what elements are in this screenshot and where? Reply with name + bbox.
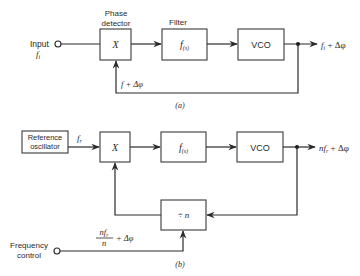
input-label: Input: [30, 39, 50, 49]
phase-detector-label-2: detector: [102, 19, 131, 28]
feedback-label: f + Δφ: [121, 79, 143, 89]
reference-label-1: Reference: [28, 133, 63, 142]
caption-a: (a): [175, 101, 185, 110]
frequency-control-label-2: control: [17, 251, 41, 260]
filter-box-b: [161, 132, 206, 162]
diagram-b: Reference oscillator fr X f(s) VCO nfr +…: [10, 131, 349, 269]
phase-detector-symbol: X: [111, 39, 119, 50]
vco-label-b: VCO: [250, 143, 270, 153]
filter-label: Filter: [169, 18, 187, 27]
divider-label: ÷ n: [178, 210, 190, 220]
fraction-suffix: + Δφ: [116, 233, 134, 243]
fraction-numerator: nfr: [100, 227, 110, 238]
output-label-b: nfr + Δφ: [319, 143, 349, 154]
caption-b: (b): [175, 260, 185, 269]
frequency-control-terminal: [54, 248, 60, 254]
output-label: fi + Δφ: [321, 40, 346, 51]
pll-diagrams: Input fi Phase detector X Filter f(s) VC…: [0, 0, 360, 276]
reference-label-2: oscillator: [30, 142, 60, 151]
input-terminal: [55, 41, 61, 47]
reference-out-label: fr: [77, 133, 83, 144]
input-symbol: fi: [36, 49, 41, 60]
phase-detector-label-1: Phase: [105, 9, 128, 18]
frequency-control-label-1: Frequency: [10, 241, 48, 250]
divider-to-mixer-wire: [115, 163, 161, 215]
phase-detector-symbol-b: X: [111, 142, 119, 153]
fraction-denominator: n: [102, 238, 106, 248]
diagram-a: Input fi Phase detector X Filter f(s) VC…: [30, 9, 346, 110]
vco-label: VCO: [251, 40, 271, 50]
